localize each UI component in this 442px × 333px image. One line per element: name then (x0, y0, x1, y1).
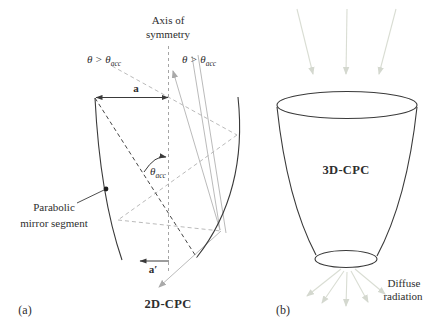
ray-beam-line-1 (192, 56, 220, 230)
panel-a: Axis of symmetry a a′ θacc θ > θacc θ > … (18, 14, 239, 317)
diffuse-arrow-top-1 (297, 9, 313, 74)
mirror-segment-label-line1: Parabolic (33, 201, 75, 213)
acceptance-construction-line (95, 98, 197, 258)
cpc3d-top-ellipse (277, 92, 417, 119)
panel-a-title: 2D-CPC (145, 297, 192, 311)
acceptance-angle-label: θacc (150, 165, 166, 180)
axis-of-symmetry-label-line2: symmetry (146, 28, 190, 40)
cpc3d-bottom-ellipse (315, 251, 377, 268)
cpc3d-left-wall (277, 107, 316, 255)
mirror-segment-label-line2: mirror segment (20, 217, 88, 229)
panel-b-title: 3D-CPC (323, 163, 370, 177)
cpc-left-wall (95, 98, 122, 260)
mirror-segment-dot (104, 187, 109, 192)
exit-aperture-label: a′ (149, 263, 158, 275)
cpc3d-right-wall (377, 107, 417, 256)
diffuse-arrow-bottom-5 (355, 269, 385, 294)
reflected-ray-1 (118, 135, 237, 220)
diffuse-arrow-top-3 (379, 9, 396, 74)
panel-b-tag: (b) (276, 303, 290, 317)
diffuse-radiation-label-line2: radiation (383, 290, 423, 302)
panel-b: 3D-CPC Diffuse radiation (b) (276, 9, 423, 317)
ray-label-left: θ > θacc (87, 53, 122, 68)
axis-of-symmetry-label-line1: Axis of (152, 14, 185, 26)
diffuse-arrow-bottom-4 (351, 271, 368, 302)
entry-aperture-label: a (133, 82, 139, 94)
figure-canvas: Axis of symmetry a a′ θacc θ > θacc θ > … (0, 0, 442, 333)
reflected-ray-2 (118, 220, 221, 231)
panel-a-tag: (a) (18, 303, 31, 317)
diffuse-radiation-label-line1: Diffuse (388, 277, 421, 289)
mirror-segment-leader (77, 190, 104, 203)
ray-beam-line-2 (198, 55, 226, 233)
cpc-figure: Axis of symmetry a a′ θacc θ > θacc θ > … (0, 0, 442, 333)
diffuse-arrow-top-2 (346, 9, 347, 74)
diffuse-arrow-bottom-3 (346, 272, 347, 306)
